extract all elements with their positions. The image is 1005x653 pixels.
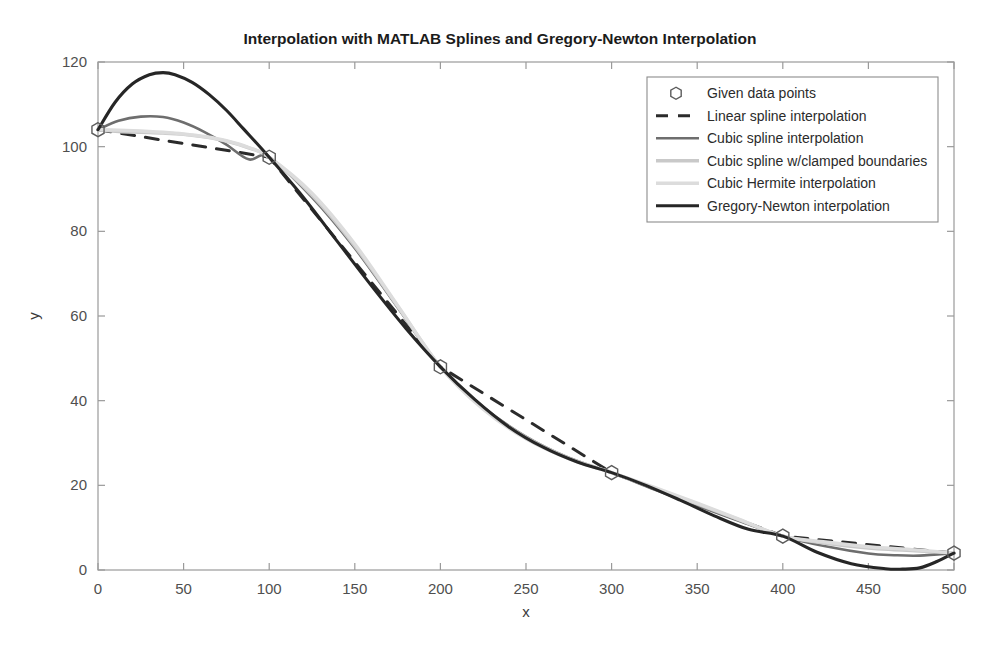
x-tick-label: 200 [428, 580, 453, 597]
y-tick-label: 40 [70, 392, 87, 409]
y-tick-label: 80 [70, 222, 87, 239]
plot-title-group: Interpolation with MATLAB Splines and Gr… [244, 30, 757, 47]
legend-item-label: Given data points [707, 85, 816, 101]
legend-item-label: Cubic spline interpolation [707, 130, 863, 146]
y-tick-label: 120 [62, 53, 87, 70]
y-tick-label: 20 [70, 476, 87, 493]
x-tick-label: 250 [513, 580, 538, 597]
y-axis-title: y [25, 312, 42, 320]
legend-item-label: Linear spline interpolation [707, 108, 867, 124]
legend-item-label: Gregory-Newton interpolation [707, 198, 890, 214]
x-tick-label: 50 [175, 580, 192, 597]
y-tick-label: 100 [62, 138, 87, 155]
x-axis-title: x [522, 603, 530, 620]
legend[interactable]: Given data pointsLinear spline interpola… [647, 77, 938, 222]
legend-item-label: Cubic Hermite interpolation [707, 175, 876, 191]
chart-canvas: Interpolation with MATLAB Splines and Gr… [0, 0, 1005, 653]
x-tick-label: 150 [342, 580, 367, 597]
y-tick-label: 0 [79, 561, 87, 578]
x-tick-label: 500 [941, 580, 966, 597]
y-tick-label: 60 [70, 307, 87, 324]
figure-container: Interpolation with MATLAB Splines and Gr… [0, 0, 1005, 653]
y-axis-title-group: y [25, 312, 42, 320]
x-axis-title-group: x [522, 603, 530, 620]
x-tick-label: 400 [770, 580, 795, 597]
page-title: Interpolation with MATLAB Splines and Gr… [244, 30, 757, 47]
x-tick-label: 300 [599, 580, 624, 597]
x-tick-label: 350 [685, 580, 710, 597]
x-tick-label: 100 [257, 580, 282, 597]
x-tick-label: 0 [94, 580, 102, 597]
legend-item-label: Cubic spline w/clamped boundaries [707, 153, 927, 169]
x-tick-label: 450 [856, 580, 881, 597]
